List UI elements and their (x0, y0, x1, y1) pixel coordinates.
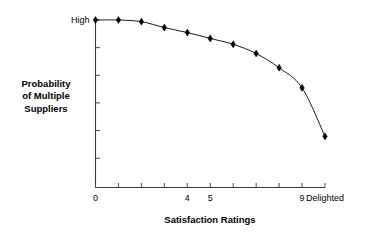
x-tick-label-5: 5 (208, 193, 213, 203)
data-point-2 (139, 18, 144, 25)
chart-figure: Probability of Multiple Suppliers Satisf… (0, 0, 374, 238)
plot-area: 0459Delighted High (0, 0, 374, 238)
axes-group (95, 20, 325, 188)
y-tick-label-0: High (71, 15, 90, 25)
x-tick-label-10: Delighted (306, 193, 344, 203)
data-point-6 (231, 41, 236, 48)
data-point-4 (185, 29, 190, 36)
series-markers (93, 16, 327, 140)
x-tick-label-0: 0 (93, 193, 98, 203)
data-point-0 (93, 16, 98, 23)
x-tick-group (96, 183, 326, 188)
data-point-5 (208, 35, 213, 42)
x-tick-label-9: 9 (300, 193, 305, 203)
y-tick-label-group: High (71, 15, 90, 25)
x-tick-label-4: 4 (185, 193, 190, 203)
data-point-3 (162, 24, 167, 31)
x-tick-label-group: 0459Delighted (93, 193, 344, 203)
data-point-8 (277, 64, 282, 71)
data-point-7 (254, 50, 259, 57)
data-point-1 (116, 16, 121, 23)
y-tick-group (96, 20, 101, 188)
